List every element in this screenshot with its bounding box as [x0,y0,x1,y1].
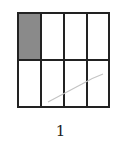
figure-label: 1 [0,122,121,140]
shaded-cell [18,13,41,60]
pencil-stroke [48,74,103,102]
fraction-grid [17,12,110,108]
